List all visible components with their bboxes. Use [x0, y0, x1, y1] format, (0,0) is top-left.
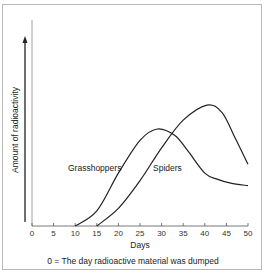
x-axis-ticks	[32, 223, 248, 226]
x-tick-label: 45	[222, 229, 231, 238]
x-axis-title: Days	[130, 240, 149, 250]
grasshoppers-line	[75, 129, 248, 226]
x-tick-label: 25	[136, 229, 145, 238]
x-tick-label: 20	[114, 229, 123, 238]
x-tick-label: 40	[200, 229, 209, 238]
x-axis-tick-labels: 05101520253035404550	[30, 229, 253, 238]
line-chart: Amount of radioactivity 0510152025303540…	[0, 0, 266, 273]
x-tick-label: 0	[30, 229, 35, 238]
arrow-up-icon	[23, 36, 28, 43]
chart-annotation: 0 = The day radioactive material was dum…	[0, 256, 266, 266]
spiders-label: Spiders	[153, 163, 182, 173]
x-tick-label: 35	[179, 229, 188, 238]
x-tick-label: 30	[157, 229, 166, 238]
y-axis-title: Amount of radioactivity	[10, 86, 20, 173]
x-tick-label: 10	[71, 229, 80, 238]
x-tick-label: 15	[92, 229, 101, 238]
grasshoppers-label: Grasshoppers	[68, 163, 121, 173]
x-tick-label: 5	[51, 229, 56, 238]
x-tick-label: 50	[244, 229, 253, 238]
